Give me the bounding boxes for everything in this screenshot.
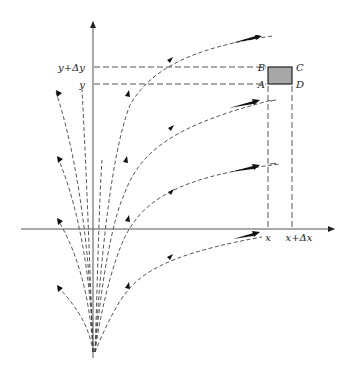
arrow-icon <box>56 90 62 97</box>
arrow-icon <box>168 189 174 195</box>
tick-marks <box>270 100 278 164</box>
label-x: x <box>265 232 271 243</box>
label-c: C <box>296 62 304 73</box>
tick <box>270 163 278 164</box>
trajectory-left-2 <box>58 158 93 352</box>
arrow-icon <box>232 35 262 43</box>
area-element-box <box>268 67 292 84</box>
arrow-icon <box>125 90 130 97</box>
trajectory-left-4 <box>58 287 93 352</box>
tick <box>270 100 276 101</box>
arrow-icon <box>168 125 174 131</box>
guide-lines <box>94 67 292 228</box>
trajectory-right-top <box>95 36 272 352</box>
trajectory-right-3 <box>95 164 280 352</box>
arrow-icon <box>57 285 63 292</box>
label-y: y <box>78 79 85 90</box>
label-a: A <box>257 79 265 90</box>
right-trajectories <box>95 36 280 352</box>
arrow-icon <box>123 156 128 163</box>
label-y-plus-dy: y+Δy <box>57 62 85 73</box>
flow-diagram: y+Δy y B A C D x x+Δx <box>0 0 352 376</box>
arrow-icon <box>125 215 130 222</box>
arrow-icon <box>167 254 173 260</box>
label-b: B <box>257 62 265 73</box>
arrow-icon <box>57 156 63 163</box>
label-x-plus-dx: x+Δx <box>286 232 313 243</box>
arrow-icon <box>230 164 260 172</box>
label-d: D <box>295 79 304 90</box>
labels: y+Δy y B A C D x x+Δx <box>57 62 313 243</box>
trajectory-inner-right <box>95 160 102 352</box>
arrow-icon <box>167 57 173 63</box>
arrow-icon <box>229 99 260 108</box>
trajectory-right-2 <box>95 100 272 352</box>
arrow-icon <box>125 282 130 289</box>
trajectory-right-4 <box>95 237 262 352</box>
